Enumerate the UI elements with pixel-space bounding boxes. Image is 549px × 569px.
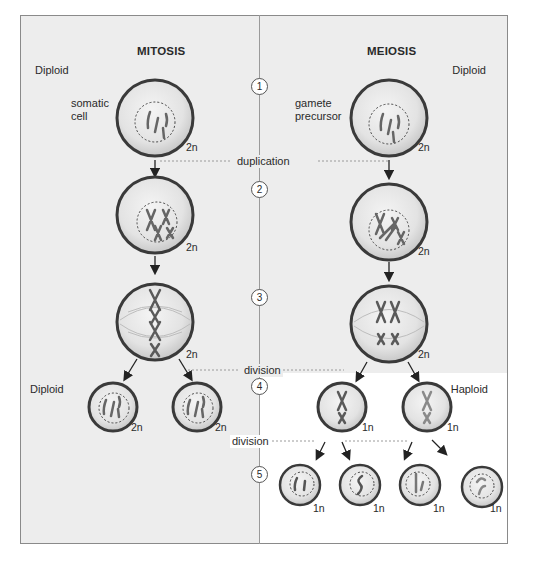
meiosis-haploid-cell-1 (318, 383, 366, 431)
meiosis-gamete-4 (462, 467, 502, 507)
mitosis-cell-1 (117, 80, 193, 156)
mitosis-cell-2 (117, 177, 193, 253)
ploidy-meiosis-8: 1n (433, 502, 445, 514)
meiosis-cell-1 (351, 80, 427, 156)
ploidy-meiosis-2: 2n (418, 245, 430, 257)
mitosis-diploid-label: Diploid (35, 64, 69, 77)
gamete-precursor-label: gamete precursor (295, 97, 341, 123)
step-3: 3 (251, 289, 268, 306)
ploidy-meiosis-3: 2n (418, 348, 430, 360)
precursor-line: precursor (295, 110, 341, 123)
ploidy-meiosis-7: 1n (373, 502, 385, 514)
mitosis-cell-3 (117, 284, 193, 360)
step-5: 5 (251, 466, 268, 483)
somatic-cell-label: somatic cell (71, 97, 109, 123)
mitosis-end-diploid-label: Diploid (30, 383, 64, 396)
meiosis-cell-2 (351, 184, 427, 260)
ploidy-mitosis-1: 2n (186, 141, 198, 153)
somatic-line: somatic (71, 97, 109, 110)
ploidy-meiosis-4: 1n (362, 421, 374, 433)
step-1: 1 (251, 78, 268, 95)
meiosis-haploid-cell-2 (403, 383, 451, 431)
ploidy-mitosis-5: 2n (215, 421, 227, 433)
division-label-1: division (242, 364, 283, 377)
ploidy-meiosis-9: 1n (490, 502, 502, 514)
mitosis-daughter-cell-1 (89, 383, 137, 431)
meiosis-title: MEIOSIS (367, 45, 416, 57)
step-4: 4 (251, 378, 268, 395)
division-label-2: division (230, 435, 271, 448)
ploidy-meiosis-6: 1n (313, 502, 325, 514)
ploidy-meiosis-5: 1n (447, 421, 459, 433)
meiosis-gamete-1 (280, 465, 320, 505)
duplication-label: duplication (235, 155, 292, 168)
meiosis-haploid-label: Haploid (451, 383, 488, 396)
gamete-line: gamete (295, 97, 341, 110)
mitosis-title: MITOSIS (137, 45, 185, 57)
meiosis-cell-3 (351, 286, 427, 362)
ploidy-mitosis-4: 2n (131, 421, 143, 433)
diagram-artwork (0, 0, 549, 569)
meiosis-gamete-3 (400, 465, 440, 505)
mitosis-daughter-cell-2 (173, 383, 221, 431)
ploidy-mitosis-3: 2n (186, 348, 198, 360)
meiosis-gamete-2 (340, 465, 380, 505)
cell-line: cell (71, 110, 109, 123)
ploidy-meiosis-1: 2n (418, 141, 430, 153)
step-2: 2 (251, 181, 268, 198)
ploidy-mitosis-2: 2n (186, 241, 198, 253)
meiosis-diploid-label: Diploid (452, 64, 486, 77)
